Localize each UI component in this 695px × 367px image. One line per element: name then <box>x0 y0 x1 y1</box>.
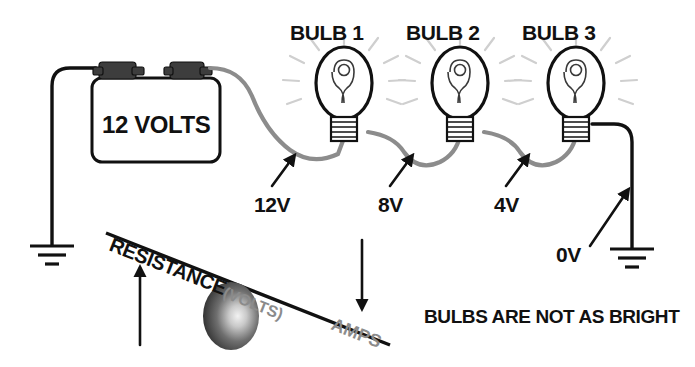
bulb-1-glass <box>316 47 372 119</box>
caption-text: BULBS ARE NOT AS BRIGHT <box>424 306 680 327</box>
voltage-label-8v: 8V <box>378 193 403 216</box>
circuit-diagram-canvas: BULB 1 BULB 2 BULB 3 12 VOLTS 12V 8V 4V … <box>0 0 695 367</box>
arrow-8v <box>390 156 412 186</box>
voltage-arrows <box>272 156 628 246</box>
battery-label: 12 VOLTS <box>102 111 211 138</box>
voltage-label-0v: 0V <box>556 243 581 266</box>
bulb-1 <box>283 30 405 141</box>
bulb-3-label: BULB 3 <box>522 21 595 44</box>
bulb-2-label: BULB 2 <box>406 21 479 44</box>
seesaw-resistance-label: RESISTANCE <box>107 233 230 299</box>
seesaw-amps-label: AMPS <box>329 314 385 352</box>
bulb-2-glass <box>432 47 488 119</box>
diagram-svg: BULB 1 BULB 2 BULB 3 12 VOLTS 12V 8V 4V … <box>0 0 695 367</box>
bulb-3-base <box>563 117 589 141</box>
battery-terminal-right <box>164 62 212 79</box>
ground-symbol-left <box>30 246 74 264</box>
voltage-label-12v: 12V <box>254 193 291 216</box>
ground-symbol-right <box>610 249 654 267</box>
bulb-1-label: BULB 1 <box>290 21 364 44</box>
arrow-4v <box>506 156 528 186</box>
arrow-12v <box>272 156 294 186</box>
voltage-label-4v: 4V <box>494 193 519 216</box>
bulb-2-base <box>447 117 473 141</box>
bulb-2 <box>399 30 521 141</box>
bulb-3-glass <box>548 47 604 119</box>
arrow-0v <box>590 190 628 246</box>
bulb-1-base <box>331 117 357 141</box>
battery-terminal-left <box>93 62 144 79</box>
left-ground-branch <box>30 68 96 264</box>
